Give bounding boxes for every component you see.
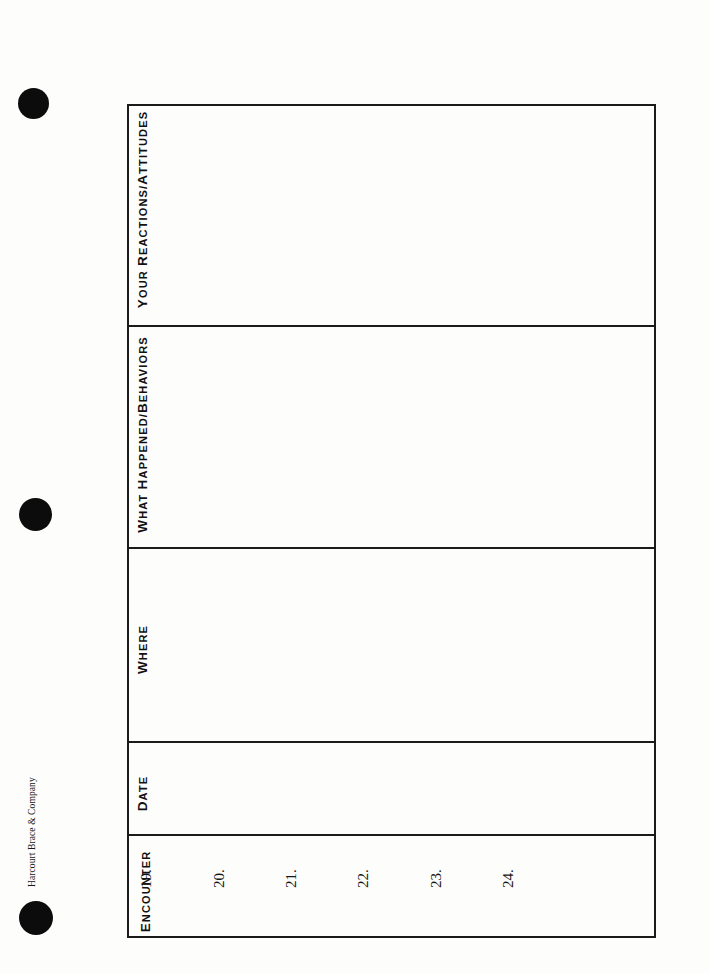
- column-header-initial-date: D: [135, 800, 150, 811]
- column-header-text-your: OUR: [137, 266, 149, 298]
- row-number-24: 24.: [500, 857, 517, 901]
- column-header-text-reactions: EACTIONS/: [137, 185, 149, 255]
- column-header-initial-r: R: [135, 255, 150, 266]
- row-number-22: 22.: [355, 857, 372, 901]
- column-header-initial-encounter: E: [138, 922, 153, 932]
- table-rule-date-encounter: [127, 834, 656, 836]
- column-header-text-date: ATE: [137, 776, 149, 801]
- binder-hole-middle-icon: [19, 498, 52, 531]
- row-number-21: 21.: [283, 857, 300, 901]
- table-border-right: [654, 104, 656, 938]
- table-rule-bottom: [127, 936, 656, 938]
- binder-hole-bottom-icon: [19, 901, 53, 935]
- column-header-text-happened: APPENED/: [137, 413, 149, 478]
- column-header-initial-w: W: [135, 519, 150, 533]
- table-rule-behaviors-where: [127, 547, 656, 549]
- publisher-credit: Harcourt Brace & Company: [27, 767, 37, 887]
- column-header-initial-y: Y: [135, 298, 150, 308]
- encounter-log-table: YOUR REACTIONS/ATTITUDES WHAT HAPPENED/B…: [127, 104, 656, 938]
- column-header-initial-h: H: [135, 478, 150, 489]
- column-header-text-where: HERE: [137, 625, 149, 660]
- worksheet-page: Harcourt Brace & Company YOUR REACTIONS/…: [0, 0, 709, 974]
- table-rule-reactions-behaviors: [127, 325, 656, 327]
- column-header-text-what: HAT: [137, 489, 149, 518]
- row-number-20: 20.: [211, 857, 228, 901]
- table-rule-where-date: [127, 741, 656, 743]
- table-rule-top: [127, 104, 656, 106]
- binder-hole-top-icon: [18, 88, 49, 119]
- column-header-initial-b: B: [135, 402, 150, 413]
- column-header-your-reactions-attitudes: YOUR REACTIONS/ATTITUDES: [135, 110, 150, 310]
- row-number-23: 23.: [428, 857, 445, 901]
- column-header-initial-where: W: [135, 660, 150, 674]
- column-header-what-happened-behaviors: WHAT HAPPENED/BEHAVIORS: [135, 335, 150, 535]
- table-border-left: [127, 104, 129, 938]
- column-header-where: WHERE: [135, 580, 150, 720]
- column-header-initial-a: A: [135, 174, 150, 185]
- column-header-text-attitudes: TTITUDES: [137, 111, 149, 174]
- row-number-19: 19.: [138, 857, 155, 901]
- column-header-text-behaviors: EHAVIORS: [137, 336, 149, 402]
